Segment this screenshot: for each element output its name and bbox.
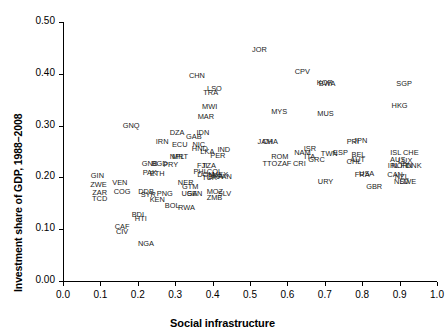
data-point-label: USA	[359, 171, 374, 178]
data-point-label: MAR	[198, 114, 214, 121]
data-point-label: GRC	[308, 156, 324, 163]
data-point-label: CHL	[347, 158, 362, 165]
data-point-label: CPV	[295, 68, 310, 75]
data-point-label: BWA	[319, 80, 336, 87]
data-point-label: SGP	[396, 80, 412, 87]
data-point-label: MUS	[317, 111, 333, 118]
data-point-label: JPN	[353, 137, 367, 144]
data-point-label: VEN	[112, 179, 127, 186]
data-point-label: NGA	[138, 240, 154, 247]
data-point-label: PAN	[217, 174, 232, 181]
data-point-label: RWA	[178, 205, 195, 212]
data-point-label: COG	[114, 188, 131, 195]
data-point-label: GIN	[91, 172, 104, 179]
data-point-label: SWE	[399, 178, 416, 185]
data-point-label: TTO	[262, 161, 277, 168]
data-point-label: ECU	[172, 142, 188, 149]
data-point-label: CIV	[116, 229, 128, 236]
data-point-label: GBR	[366, 183, 382, 190]
plot-area: JORCHNCPVKORBWASGPLSOTRAMWIHKGMYSMUSMARG…	[0, 0, 445, 332]
data-point-label: PER	[210, 152, 225, 159]
data-point-label: CHA	[262, 138, 278, 145]
data-point-label: MWI	[202, 103, 217, 110]
data-point-label: CHN	[189, 72, 205, 79]
data-point-label: ZAF	[277, 160, 291, 167]
data-point-label: DNK	[406, 162, 422, 169]
data-point-label: URY	[318, 178, 333, 185]
data-point-label: ETH	[150, 171, 165, 178]
scatter-chart: Investment share of GDP, 1988–2008 Socia…	[0, 0, 445, 332]
data-point-label: GNQ	[123, 122, 140, 129]
data-point-label: TRA	[203, 90, 218, 97]
data-point-label: IRN	[156, 138, 169, 145]
data-point-label: PRY	[163, 161, 178, 168]
data-point-label: HTI	[135, 215, 147, 222]
data-point-label: ZMB	[207, 194, 223, 201]
data-point-label: KEN	[150, 196, 165, 203]
data-point-label: CRI	[293, 160, 306, 167]
data-point-label: JOR	[252, 46, 267, 53]
data-point-label: MYS	[271, 108, 287, 115]
data-point-label: SEN	[187, 190, 202, 197]
data-point-label: TCD	[92, 195, 107, 202]
data-point-label: CHE	[403, 149, 419, 156]
data-point-label: DZA	[170, 129, 185, 136]
data-point-label: HKG	[392, 103, 408, 110]
